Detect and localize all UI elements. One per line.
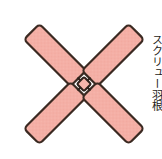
- figure-canvas: スクリュー羽根: [0, 0, 162, 159]
- blade-upper-left: [24, 24, 86, 86]
- rotor-diagram: [0, 0, 162, 159]
- blade-upper-left-body: [24, 24, 86, 86]
- blade-lower-right: [82, 82, 144, 144]
- blade-upper-right: [82, 24, 144, 86]
- blade-lower-left: [24, 82, 86, 144]
- blade-lower-right-body: [82, 82, 144, 144]
- blade-upper-right-body: [82, 24, 144, 86]
- blade-lower-left-body: [24, 82, 86, 144]
- vertical-caption: スクリュー羽根: [149, 34, 162, 120]
